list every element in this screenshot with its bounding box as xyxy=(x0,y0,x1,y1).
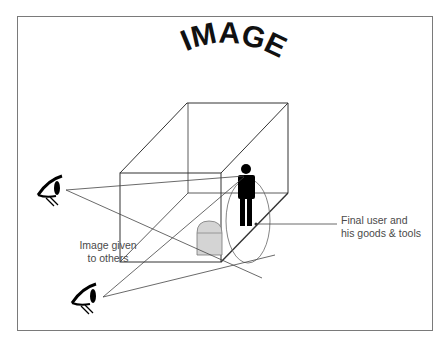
label-line: to others xyxy=(58,252,158,265)
goods-dome-icon xyxy=(197,221,222,255)
image-given-label: Image given to others xyxy=(58,239,158,265)
diagram-title: IMAGE xyxy=(176,15,292,63)
eye-icon xyxy=(38,176,62,206)
eye-icon-bottom xyxy=(72,284,96,314)
label-line: Final user and xyxy=(341,214,421,227)
final-user-label: Final user and his goods & tools xyxy=(341,214,421,240)
person-icon xyxy=(238,164,255,226)
label-line: his goods & tools xyxy=(341,227,421,240)
label-line: Image given xyxy=(58,239,158,252)
diagram-canvas: IMAGE xyxy=(0,0,448,349)
